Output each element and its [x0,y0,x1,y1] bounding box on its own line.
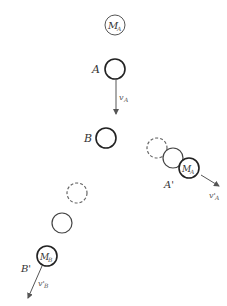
velocity-a-arrow: v A [116,79,129,114]
mass-a-legend: M A [105,15,125,35]
svg-text:B: B [47,256,53,263]
velocity-a-after-arrow: v' A [201,175,220,201]
ball-a: A [91,59,125,79]
svg-text:A: A [214,194,220,201]
svg-text:A: A [189,168,195,175]
svg-text:A: A [116,25,122,32]
svg-text:A: A [123,96,129,103]
ball-b-trajectory: M B B' [20,183,87,274]
svg-text:B: B [83,132,92,145]
collision-diagram: M A A v A B M A A' v' A M B B' [0,0,227,306]
svg-text:B': B' [20,263,31,274]
svg-text:B: B [43,282,49,289]
svg-text:A': A' [163,179,174,190]
svg-text:A: A [91,63,100,76]
ball-b: B [83,128,116,148]
velocity-b-after-arrow: v' B [28,266,49,298]
ball-a-trajectory: M A A' [147,138,199,190]
